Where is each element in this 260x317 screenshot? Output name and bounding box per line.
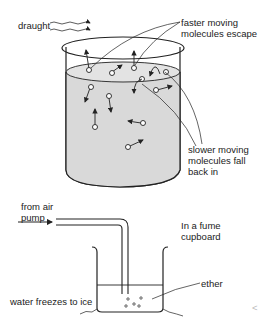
label-faster-1: faster moving [181, 17, 238, 28]
label-slower-1: slower moving [188, 144, 249, 155]
label-ether: ether [201, 278, 223, 289]
draught-arrows [50, 22, 90, 31]
evaporation-figure: draught faster moving molecules escape s… [0, 0, 260, 317]
label-slower-2: molecules fall [188, 155, 246, 166]
label-draught: draught [18, 20, 50, 31]
air-tube [18, 219, 128, 294]
label-slower-3: back in [188, 166, 218, 177]
label-fume-2: cupboard [181, 231, 221, 242]
label-fume-1: In a fume [181, 220, 221, 231]
label-faster-2: molecules escape [181, 28, 257, 39]
label-from-air-2: pump [21, 212, 45, 223]
bubbles [125, 297, 142, 307]
prev-page-icon[interactable]: < [252, 302, 258, 313]
liquid-top [66, 72, 180, 187]
label-from-air-1: from air [21, 201, 53, 212]
liquid-surface [66, 62, 180, 82]
label-water-freezes: water freezes to ice [10, 296, 92, 307]
beaker-bottom [92, 247, 168, 312]
